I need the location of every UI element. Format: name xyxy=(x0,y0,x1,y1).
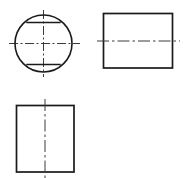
drawing-background xyxy=(0,0,183,178)
engineering-drawing-canvas xyxy=(0,0,183,178)
three-view-drawing xyxy=(0,0,183,178)
